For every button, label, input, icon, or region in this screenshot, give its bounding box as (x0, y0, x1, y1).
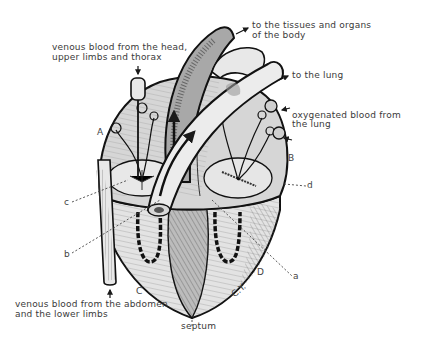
label-oxygenated-line2: the lung (292, 120, 331, 129)
region-label-A: A (97, 128, 103, 137)
pointer-label-d: d (307, 181, 313, 190)
label-venous-upper-line2: upper limbs and thorax (52, 53, 162, 62)
region-label-D: D (257, 268, 264, 277)
label-to-lung: to the lung (292, 71, 343, 80)
pointer-label-b: b (64, 250, 70, 259)
region-label-B: B (288, 154, 294, 163)
label-tissues-line1: to the tissues and organs (252, 21, 371, 30)
heart-diagram: venous blood from the head, upper limbs … (0, 0, 422, 348)
pointer-label-c: c (64, 198, 69, 207)
label-tissues-line2: of the body (252, 31, 306, 40)
label-venous-lower-line1: venous blood from the abdomen (15, 300, 168, 309)
label-septum: septum (181, 322, 216, 331)
label-venous-upper-line1: venous blood from the head, (52, 43, 187, 52)
region-label-C: C (136, 287, 142, 296)
label-venous-lower-line2: and the lower limbs (15, 310, 108, 319)
pointer-label-a: a (293, 272, 299, 281)
